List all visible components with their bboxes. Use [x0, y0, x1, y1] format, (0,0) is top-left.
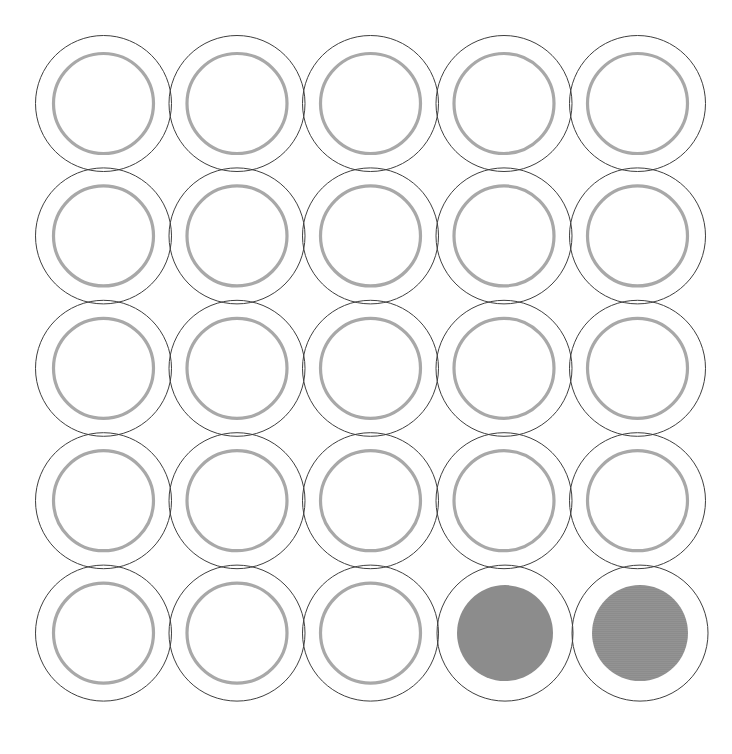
filled-inner-disk	[592, 585, 688, 681]
circle-grid-svg	[0, 0, 732, 754]
circle-grid-canvas	[0, 0, 732, 754]
filled-inner-disk	[457, 585, 553, 681]
